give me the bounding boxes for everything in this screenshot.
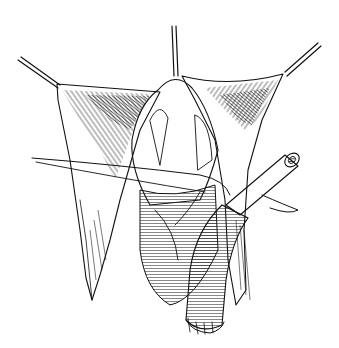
- tubular-graft: [226, 150, 302, 215]
- surgical-illustration: Black-and-white surgical line drawing: r…: [0, 0, 339, 348]
- retractor-left: [18, 57, 60, 88]
- retractor-right: [285, 43, 321, 76]
- retractor-top: [172, 26, 178, 76]
- illustration-svg: [0, 0, 339, 348]
